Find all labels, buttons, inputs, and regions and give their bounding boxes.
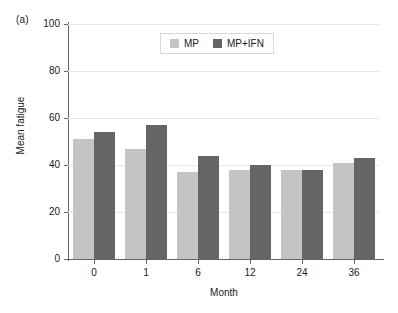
- x-axis-tick-mark: [250, 260, 251, 264]
- x-axis-tick-label: 24: [282, 267, 322, 278]
- x-axis-title: Month: [68, 287, 380, 298]
- x-axis-tick-mark: [198, 260, 199, 264]
- bar-mp-ifn-12: [250, 165, 271, 259]
- x-axis-tick-label: 1: [126, 267, 166, 278]
- legend-label: MP+IFN: [227, 38, 264, 49]
- legend-swatch-icon: [213, 39, 222, 48]
- x-axis-tick-mark: [94, 260, 95, 264]
- bar-mp-ifn-24: [302, 170, 323, 259]
- bar-mp-12: [229, 170, 250, 259]
- x-axis-tick-label: 12: [230, 267, 270, 278]
- x-axis-tick-label: 0: [74, 267, 114, 278]
- legend-item-mp: MP: [170, 38, 199, 49]
- bar-mp-6: [177, 172, 198, 259]
- y-axis-tick-label: 20: [20, 206, 60, 217]
- x-axis-tick-label: 6: [178, 267, 218, 278]
- bar-mp-ifn-0: [94, 132, 115, 259]
- x-axis-line: [68, 259, 384, 260]
- y-axis-tick-label: 60: [20, 112, 60, 123]
- bar-mp-24: [281, 170, 302, 259]
- plot-area: [68, 24, 380, 259]
- y-axis-tick-label: 40: [20, 159, 60, 170]
- gridline: [68, 24, 380, 25]
- x-axis-tick-mark: [146, 260, 147, 264]
- x-axis-tick-mark: [354, 260, 355, 264]
- legend-item-mp-ifn: MP+IFN: [213, 38, 264, 49]
- bar-mp-ifn-6: [198, 156, 219, 259]
- bar-mp-ifn-36: [354, 158, 375, 259]
- gridline: [68, 71, 380, 72]
- y-axis-tick-label: 100: [20, 18, 60, 29]
- bar-mp-0: [73, 139, 94, 259]
- x-axis-tick-label: 36: [334, 267, 374, 278]
- y-axis-tick-label: 80: [20, 65, 60, 76]
- legend-label: MP: [184, 38, 199, 49]
- y-axis-tick-label: 0: [20, 253, 60, 264]
- legend-swatch-icon: [170, 39, 179, 48]
- x-axis-tick-mark: [302, 260, 303, 264]
- chart-legend: MPMP+IFN: [160, 33, 274, 54]
- y-axis-tick-mark: [64, 259, 68, 260]
- figure-panel: (a) Mean fatigue 020406080100 016122436 …: [0, 0, 398, 313]
- bar-mp-ifn-1: [146, 125, 167, 259]
- gridline: [68, 118, 380, 119]
- bar-mp-1: [125, 149, 146, 259]
- bar-mp-36: [333, 163, 354, 259]
